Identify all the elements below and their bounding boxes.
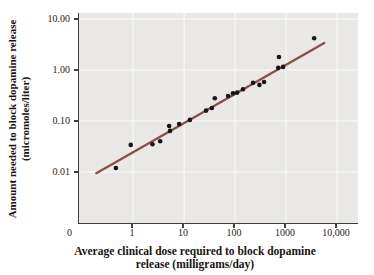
data-point [241, 87, 246, 92]
x-axis-title-line1: Average clinical dose required to block … [30, 245, 360, 258]
y-tick-mark [74, 171, 78, 172]
y-tick-label: 0.10 [36, 116, 70, 126]
data-point [251, 81, 256, 86]
data-point [226, 94, 231, 99]
x-axis-title: Average clinical dose required to block … [30, 245, 360, 271]
data-point [262, 80, 267, 85]
y-tick-mark [74, 69, 78, 70]
data-point [204, 108, 209, 113]
x-tick-label: 10 [178, 228, 188, 238]
data-point [167, 124, 172, 129]
data-point [177, 122, 182, 127]
data-point [114, 166, 119, 171]
data-point [257, 83, 262, 88]
data-point [231, 91, 236, 96]
origin-label: 0 [67, 228, 72, 238]
data-point [158, 139, 163, 144]
y-tick-mark [74, 120, 78, 121]
y-tick-label: 10.00 [36, 14, 70, 24]
data-point [168, 129, 173, 134]
data-point [212, 96, 217, 101]
data-point [188, 118, 193, 123]
y-tick-label: 1.00 [36, 65, 70, 75]
plot-svg [79, 13, 358, 223]
data-point [235, 90, 240, 95]
data-point [281, 65, 286, 70]
data-point [276, 66, 281, 71]
data-point [128, 143, 133, 148]
x-axis-title-line2: release (milligrams/day) [30, 258, 360, 271]
x-tick-label: 1 [130, 228, 135, 238]
data-point [150, 142, 155, 147]
y-axis-title: Amount needed to block dopamine release … [6, 6, 36, 232]
x-tick-label: 10,000 [322, 228, 350, 238]
data-point [312, 36, 317, 41]
y-axis-title-line2: (micromoles/liter) [19, 6, 32, 232]
y-tick-mark [74, 18, 78, 19]
plot-area [78, 13, 358, 224]
dopamine-dose-scatter-figure: Amount needed to block dopamine release … [0, 0, 374, 275]
x-tick-label: 1000 [275, 228, 295, 238]
y-tick-label: 0.01 [36, 167, 70, 177]
data-point [210, 106, 215, 111]
x-tick-label: 100 [227, 228, 242, 238]
data-point [277, 55, 282, 60]
y-axis-title-line1: Amount needed to block dopamine release [6, 6, 19, 232]
